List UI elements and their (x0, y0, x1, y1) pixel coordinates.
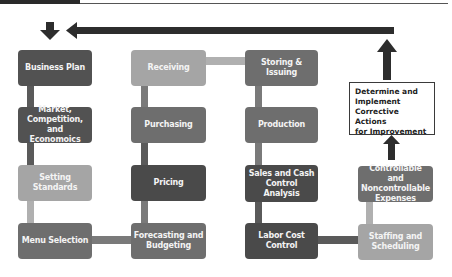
box-corrective-actions: Determine and Implement Corrective Actio… (349, 82, 435, 135)
box-label: Storing & Issuing (247, 58, 316, 78)
box-label: Implement (355, 97, 429, 107)
box-label: Setting Standards (20, 173, 90, 193)
up-arrow-icon (377, 39, 397, 80)
box-label: Production (258, 120, 305, 130)
box-label: Budgeting (146, 241, 191, 251)
box-label: Competition, and (20, 115, 90, 135)
box-label: Staffing and (369, 232, 422, 242)
box-label: Menu Selection (22, 236, 89, 246)
box-labor-cost-control: Labor Cost Control (245, 223, 318, 259)
box-pricing: Pricing (131, 165, 206, 201)
box-production: Production (245, 107, 318, 143)
box-label: Scheduling (372, 242, 420, 252)
box-label: Market, (38, 105, 71, 115)
down-arrow-icon (40, 22, 60, 40)
box-label: Receiving (147, 63, 189, 73)
connector (27, 201, 34, 223)
connector (255, 202, 262, 223)
connector (141, 86, 148, 107)
small-up-arrow-icon (383, 135, 400, 160)
box-label: Purchasing (144, 120, 192, 130)
box-label: Economoics (30, 135, 81, 145)
connector (255, 143, 262, 165)
box-label: Labor Cost (258, 231, 304, 241)
connector (206, 57, 245, 65)
box-purchasing: Purchasing (131, 107, 206, 143)
box-label: Control (266, 241, 298, 251)
connector (255, 86, 262, 107)
connector (141, 143, 148, 165)
box-controllable-expenses: Controllable and Noncontrollable Expense… (358, 166, 433, 202)
box-label: Corrective Actions (355, 107, 429, 127)
connector (92, 236, 131, 244)
box-label: Pricing (153, 178, 183, 188)
box-staffing-scheduling: Staffing and Scheduling (358, 224, 433, 260)
left-arrow-icon (66, 22, 394, 39)
connector (366, 202, 373, 224)
box-menu-selection: Menu Selection (18, 223, 92, 259)
box-forecasting-budgeting: Forecasting and Budgeting (131, 223, 206, 259)
box-market-competition-economics: Market, Competition, and Economoics (18, 107, 92, 143)
box-setting-standards: Setting Standards (18, 165, 92, 201)
box-sales-cash-control: Sales and Cash Control Analysis (245, 165, 318, 202)
box-storing-issuing: Storing & Issuing (245, 50, 318, 86)
box-label: Sales and Cash (249, 169, 314, 179)
connector (141, 201, 148, 223)
connector (27, 86, 34, 107)
box-label: Determine and (355, 87, 429, 97)
connector (318, 236, 358, 244)
box-label: Controllable and (360, 164, 431, 184)
box-business-plan: Business Plan (18, 50, 92, 86)
box-label: Noncontrollable (361, 184, 430, 194)
box-label: Business Plan (25, 63, 85, 73)
box-label: Expenses (375, 194, 416, 204)
box-receiving: Receiving (131, 50, 206, 86)
connector (27, 143, 34, 165)
box-label: Forecasting and (134, 231, 204, 241)
box-label: for Improvement (355, 127, 429, 137)
box-label: Control Analysis (247, 179, 316, 199)
